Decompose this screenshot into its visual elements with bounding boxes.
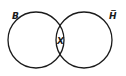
set-b-label: B: [12, 11, 19, 21]
venn-diagram: B H̅ X: [0, 0, 126, 76]
intersection-label: X: [56, 36, 65, 46]
set-h-bar-label: H̅: [109, 10, 117, 21]
